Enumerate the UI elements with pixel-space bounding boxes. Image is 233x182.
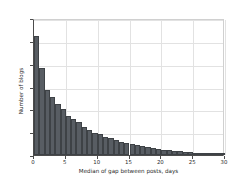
y-axis-label: Number of blogs [18,68,24,114]
x-tick-mark [160,156,161,159]
x-axis-label: Median of gap between posts, days [33,168,224,174]
x-tick-label: 10 [93,159,100,165]
x-tick-mark [129,156,130,159]
y-tick-mark [30,88,33,89]
gridline-x-30 [225,20,226,155]
y-tick-mark [30,19,33,20]
y-tick-mark [30,65,33,66]
x-tick-mark [97,156,98,159]
x-tick-label: 25 [189,159,196,165]
histogram-bar [220,153,225,155]
x-tick-label: 30 [221,159,228,165]
x-tick-mark [192,156,193,159]
x-tick-label: 20 [157,159,164,165]
x-tick-label: 15 [125,159,132,165]
y-tick-mark [30,133,33,134]
x-tick-mark [224,156,225,159]
y-tick-mark [30,110,33,111]
plot-area [33,19,224,156]
x-tick-label: 5 [63,159,66,165]
x-tick-mark [65,156,66,159]
histogram-bars [34,20,223,155]
x-tick-label: 0 [31,159,34,165]
x-tick-mark [33,156,34,159]
y-tick-mark [30,42,33,43]
histogram-figure: 020004000600080001000012000 051015202530… [0,0,233,182]
